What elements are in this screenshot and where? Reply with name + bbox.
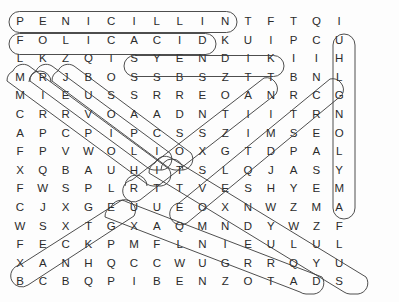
grid-letter: M bbox=[191, 221, 213, 233]
grid-letter: E bbox=[55, 90, 77, 102]
grid-letter: K bbox=[32, 53, 54, 65]
grid-letter: C bbox=[146, 128, 168, 140]
grid-letter: L bbox=[214, 165, 236, 177]
grid-letter: S bbox=[328, 276, 350, 288]
grid-letter: U bbox=[100, 165, 122, 177]
grid-letter: C bbox=[146, 258, 168, 270]
grid-letter: N bbox=[260, 90, 282, 102]
grid-letter: Q bbox=[283, 258, 305, 270]
grid-letter: T bbox=[283, 109, 305, 121]
grid-letter: S bbox=[191, 72, 213, 84]
grid-letter: L bbox=[9, 53, 31, 65]
grid-letter: M bbox=[9, 72, 31, 84]
grid-letter: B bbox=[55, 276, 77, 288]
grid-letter: Z bbox=[305, 221, 327, 233]
grid-letter: W bbox=[77, 146, 99, 158]
grid-letter: O bbox=[100, 146, 122, 158]
grid-letter: E bbox=[169, 276, 191, 288]
grid-letter: W bbox=[260, 202, 282, 214]
grid-letter: E bbox=[169, 53, 191, 65]
grid-letter: G bbox=[328, 90, 350, 102]
grid-letter: A bbox=[283, 165, 305, 177]
grid-letter: I bbox=[237, 53, 259, 65]
grid-letter: S bbox=[123, 53, 145, 65]
grid-letter: F bbox=[146, 239, 168, 251]
grid-letter: C bbox=[146, 35, 168, 47]
grid-letter: H bbox=[260, 183, 282, 195]
grid-letter: E bbox=[191, 90, 213, 102]
grid-letter: S bbox=[100, 90, 122, 102]
grid-letter: P bbox=[77, 128, 99, 140]
grid-letter: T bbox=[77, 221, 99, 233]
grid-letter: P bbox=[100, 239, 122, 251]
grid-letter: N bbox=[214, 221, 236, 233]
grid-letter: H bbox=[123, 165, 145, 177]
grid-letter: S bbox=[123, 90, 145, 102]
grid-letter: B bbox=[169, 72, 191, 84]
grid-letter: Z bbox=[214, 128, 236, 140]
grid-letter: I bbox=[77, 16, 99, 28]
grid-letter: I bbox=[146, 146, 168, 158]
grid-letter: D bbox=[169, 109, 191, 121]
grid-letter: R bbox=[237, 258, 259, 270]
grid-letter: Q bbox=[100, 258, 122, 270]
grid-letter: Z bbox=[55, 53, 77, 65]
grid-letter: L bbox=[55, 35, 77, 47]
grid-letter: P bbox=[32, 146, 54, 158]
grid-letter: W bbox=[283, 221, 305, 233]
grid-letter: N bbox=[305, 72, 327, 84]
grid-letter: F bbox=[260, 16, 282, 28]
grid-letter: X bbox=[123, 221, 145, 233]
grid-letter: I bbox=[237, 128, 259, 140]
grid-letter: V bbox=[55, 146, 77, 158]
grid-letter: C bbox=[9, 109, 31, 121]
grid-letter: I bbox=[169, 35, 191, 47]
grid-letter: I bbox=[328, 16, 350, 28]
letter-grid: PENICILLINTFTQIFOLICACIDKUIPCULKZQISYEND… bbox=[0, 0, 399, 302]
grid-letter: R bbox=[55, 109, 77, 121]
grid-letter: I bbox=[32, 90, 54, 102]
grid-letter: T bbox=[283, 16, 305, 28]
grid-letter: S bbox=[32, 221, 54, 233]
grid-letter: D bbox=[214, 53, 236, 65]
grid-letter: Q bbox=[77, 276, 99, 288]
grid-letter: C bbox=[100, 35, 122, 47]
grid-letter: P bbox=[77, 183, 99, 195]
grid-letter: S bbox=[191, 165, 213, 177]
grid-letter: Y bbox=[328, 165, 350, 177]
grid-letter: B bbox=[283, 72, 305, 84]
grid-letter: I bbox=[237, 109, 259, 121]
grid-letter: M bbox=[260, 128, 282, 140]
grid-letter: R bbox=[32, 109, 54, 121]
grid-letter: U bbox=[77, 90, 99, 102]
grid-letter: I bbox=[260, 109, 282, 121]
grid-letter: T bbox=[237, 72, 259, 84]
grid-letter: V bbox=[77, 109, 99, 121]
grid-letter: T bbox=[169, 165, 191, 177]
grid-letter: S bbox=[146, 72, 168, 84]
grid-letter: X bbox=[55, 221, 77, 233]
grid-letter: A bbox=[9, 128, 31, 140]
grid-letter: C bbox=[32, 276, 54, 288]
grid-letter: U bbox=[260, 239, 282, 251]
grid-letter: C bbox=[305, 90, 327, 102]
grid-letter: C bbox=[55, 128, 77, 140]
grid-letter: L bbox=[328, 239, 350, 251]
grid-letter: C bbox=[123, 258, 145, 270]
grid-letter: T bbox=[260, 276, 282, 288]
grid-letter: I bbox=[214, 239, 236, 251]
grid-letter: L bbox=[328, 72, 350, 84]
grid-letter: X bbox=[214, 202, 236, 214]
grid-letter: F bbox=[9, 146, 31, 158]
grid-letter: O bbox=[100, 72, 122, 84]
grid-letter: A bbox=[32, 258, 54, 270]
grid-letter: S bbox=[305, 165, 327, 177]
grid-letter: U bbox=[123, 202, 145, 214]
grid-letter: P bbox=[9, 16, 31, 28]
grid-letter: D bbox=[260, 146, 282, 158]
grid-letter: S bbox=[191, 128, 213, 140]
grid-letter: F bbox=[9, 239, 31, 251]
grid-letter: L bbox=[283, 239, 305, 251]
grid-letter: I bbox=[283, 53, 305, 65]
grid-letter: F bbox=[328, 221, 350, 233]
